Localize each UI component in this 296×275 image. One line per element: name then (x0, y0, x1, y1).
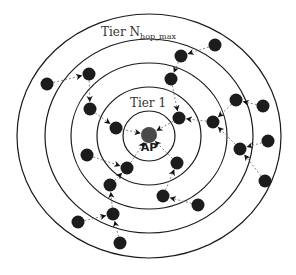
link-n7-to-n8 (172, 85, 177, 110)
link-n19-to-n18 (84, 216, 105, 221)
link-n1-to-n2 (53, 76, 81, 83)
sensor-node-n16 (121, 162, 134, 175)
access-point: AP (141, 127, 158, 154)
link-n2-to-n3 (89, 80, 90, 101)
sensor-node-n15 (81, 149, 94, 162)
link-n10-to-n9 (243, 102, 256, 105)
sensor-node-n5 (209, 39, 222, 52)
tier-topology-diagram: AP Tier 1 Tier Nhop_max (0, 0, 296, 275)
sensor-node-n4 (110, 122, 123, 135)
sensor-node-n23 (192, 199, 205, 212)
sensor-node-n22 (157, 190, 170, 203)
sensor-node-n20 (114, 237, 127, 250)
sensor-node-n18 (107, 208, 120, 221)
tier-nhopmax-label: Tier Nhop_max (101, 25, 176, 41)
sensor-node-n10 (257, 100, 270, 113)
sensor-node-n7 (165, 73, 178, 86)
ap-label: AP (141, 141, 158, 154)
sensor-node-n11 (207, 116, 220, 129)
tier-nhopmax-main: Tier N (101, 25, 140, 39)
sensor-node-n6 (175, 50, 188, 63)
sensor-node-n21 (171, 157, 184, 170)
sensor-node-n2 (83, 68, 96, 81)
link-n14-to-n13 (245, 155, 261, 176)
sensor-node-n9 (230, 94, 243, 107)
link-n4-to-ap (122, 129, 140, 133)
link-n11-to-n8 (186, 119, 206, 121)
sensor-node-n19 (72, 216, 85, 229)
tier-nhopmax-sub: hop_max (140, 32, 176, 41)
sensor-node-n13 (234, 143, 247, 156)
sensor-node-n14 (259, 175, 272, 188)
sensor-node-n12 (262, 135, 275, 148)
sensor-node-n8 (173, 112, 186, 125)
sensor-node-n3 (84, 103, 97, 116)
sensor-node-n1 (41, 78, 54, 91)
tier-1-label: Tier 1 (130, 96, 166, 110)
sensor-node-n17 (104, 179, 117, 192)
link-n12-to-n13 (247, 143, 262, 147)
